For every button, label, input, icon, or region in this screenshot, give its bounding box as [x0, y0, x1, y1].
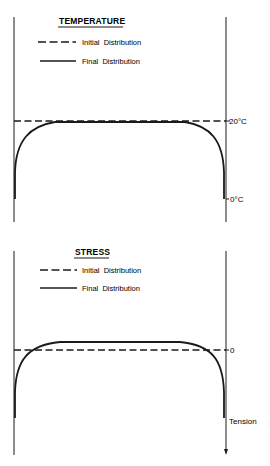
- label-20c: 20°C: [229, 117, 247, 126]
- legend-initial-label: Initial Distribution: [82, 38, 141, 47]
- legend-final-label: Final Distribution: [82, 284, 140, 293]
- temperature-title: TEMPERATURE: [59, 16, 125, 26]
- temperature-final-distribution: [15, 122, 224, 199]
- label-zero: 0: [230, 346, 235, 355]
- temperature-panel: TEMPERATURE Initial Distribution Final D…: [14, 16, 247, 222]
- stress-panel: STRESS Initial Distribution Final Distri…: [14, 247, 257, 455]
- label-tension: Tension: [229, 417, 257, 426]
- legend-final-label: Final Distribution: [82, 57, 140, 66]
- diagram-canvas: TEMPERATURE Initial Distribution Final D…: [0, 0, 270, 466]
- label-0c: 0°C: [230, 195, 244, 204]
- legend-initial-label: Initial Distribution: [82, 266, 141, 275]
- tension-arrow-icon: [224, 449, 228, 455]
- stress-final-distribution: [15, 342, 224, 418]
- stress-title: STRESS: [75, 247, 110, 257]
